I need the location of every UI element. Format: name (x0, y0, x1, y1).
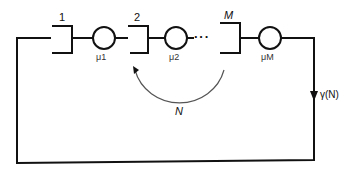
server-m-icon (259, 27, 281, 49)
queueing-network-diagram (0, 0, 357, 170)
queue-1-label: 1 (59, 12, 65, 23)
flow-arrow-down-icon (310, 91, 318, 101)
population-arc (135, 70, 224, 103)
server-2-icon (165, 27, 187, 49)
mu-1-label: μ1 (96, 53, 106, 62)
queue-2-label: 2 (134, 12, 140, 23)
queue-m (220, 23, 281, 53)
queue-2 (128, 26, 194, 53)
population-label: N (175, 106, 183, 117)
throughput-label: γ(N) (320, 90, 339, 100)
ellipsis: ··· (194, 30, 210, 43)
mu-2-label: μ2 (169, 53, 179, 62)
server-1-icon (93, 27, 115, 49)
queue-1 (52, 26, 128, 53)
mu-m-label: μM (261, 53, 274, 62)
queue-m-label: M (224, 10, 233, 21)
